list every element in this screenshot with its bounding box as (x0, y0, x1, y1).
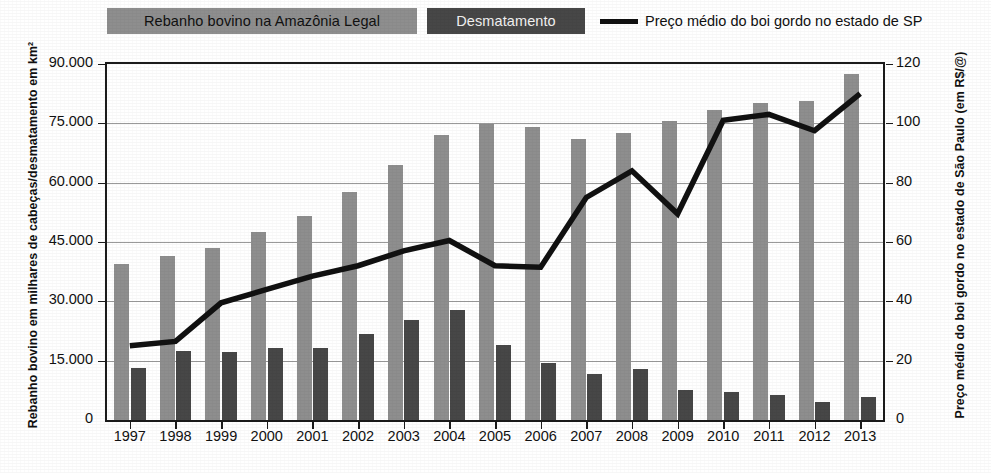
y-axis-right-tick-mark (886, 242, 893, 243)
x-axis-tick-mark (860, 422, 862, 429)
x-axis-tick-mark (130, 422, 132, 429)
x-axis-tick-mark (723, 422, 725, 429)
y-axis-right-tick-mark (886, 183, 893, 184)
legend-item-herd[interactable]: Rebanho bovino na Amazônia Legal (107, 8, 417, 34)
y-axis-left-tick-label: 75.000 (49, 113, 93, 129)
x-axis-tick-mark (358, 422, 360, 429)
y-axis-left-tick-mark (98, 361, 105, 362)
x-axis-tick-mark (312, 422, 314, 429)
chart-figure: Rebanho bovino na Amazônia Legal Desmata… (0, 0, 991, 473)
y-axis-right-tick-mark (886, 123, 893, 124)
y-axis-left-tick-mark (98, 123, 105, 124)
y-axis-right-tick-label: 100 (896, 113, 920, 129)
y-axis-left-tick-label: 30.000 (49, 291, 93, 307)
legend-line-icon (600, 19, 638, 24)
y-axis-right-tick-mark (886, 301, 893, 302)
x-axis-tick-mark (769, 422, 771, 429)
x-axis-tick-label-2013: 2013 (830, 428, 890, 444)
y-axis-left-tick-mark (98, 64, 105, 65)
x-axis-tick-mark (267, 422, 269, 429)
y-axis-right-tick-label: 20 (896, 351, 912, 367)
y-axis-right-tick-mark (886, 361, 893, 362)
x-axis-tick-mark (541, 422, 543, 429)
chart-legend: Rebanho bovino na Amazônia Legal Desmata… (0, 0, 991, 40)
x-axis-tick-mark (815, 422, 817, 429)
x-axis-tick-mark (495, 422, 497, 429)
x-axis-tick-mark (678, 422, 680, 429)
x-axis-tick-mark (586, 422, 588, 429)
plot-area (105, 62, 885, 422)
legend-label-price: Preço médio do boi gordo no estado de SP (645, 11, 922, 31)
y-axis-left-title: Rebanho bovino em milhares de cabeças/de… (26, 35, 40, 435)
y-axis-left-tick-label: 90.000 (49, 54, 93, 70)
price-polyline (130, 94, 860, 346)
x-axis-tick-mark (221, 422, 223, 429)
legend-swatch-herd: Rebanho bovino na Amazônia Legal (107, 8, 417, 34)
y-axis-right-tick-mark (886, 64, 893, 65)
x-axis-tick-mark (632, 422, 634, 429)
y-axis-right-tick-label: 0 (896, 410, 904, 426)
y-axis-left-tick-label: 15.000 (49, 351, 93, 367)
y-axis-left-tick-mark (98, 301, 105, 302)
x-axis-tick-mark (175, 422, 177, 429)
y-axis-right-tick-label: 80 (896, 173, 912, 189)
y-axis-left-tick-mark (98, 183, 105, 184)
x-axis-tick-mark (449, 422, 451, 429)
legend-item-deforestation[interactable]: Desmatamento (427, 8, 585, 34)
y-axis-left-tick-label: 0 (85, 410, 93, 426)
y-axis-left-tick-label: 45.000 (49, 232, 93, 248)
legend-item-price[interactable]: Preço médio do boi gordo no estado de SP (600, 11, 922, 31)
x-axis-tick-mark (404, 422, 406, 429)
y-axis-right-tick-label: 40 (896, 291, 912, 307)
price-line-series (107, 64, 883, 420)
y-axis-left-tick-mark (98, 242, 105, 243)
y-axis-left-tick-label: 60.000 (49, 173, 93, 189)
y-axis-right-title: Preço médio do boi gordo no estado de Sã… (953, 35, 967, 435)
y-axis-right-tick-label: 60 (896, 232, 912, 248)
y-axis-right-tick-label: 120 (896, 54, 920, 70)
legend-swatch-deforestation: Desmatamento (427, 8, 585, 34)
